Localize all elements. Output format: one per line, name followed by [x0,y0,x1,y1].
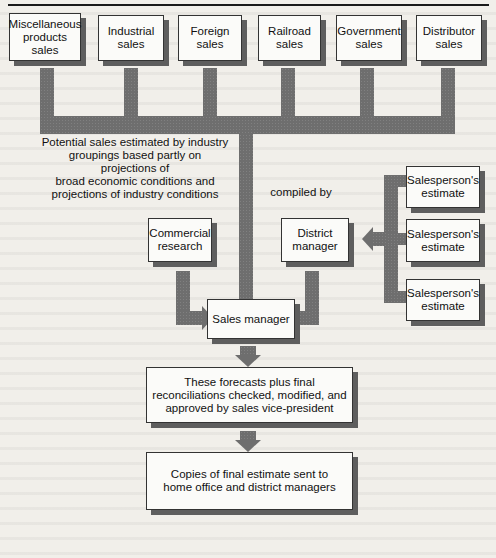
box-distributor-sales: Distributor sales [416,15,482,61]
stem-distributor [441,68,455,118]
label: Commercial research [149,227,210,253]
top-rule [8,4,489,6]
label: Sales manager [212,313,289,326]
salesperson-bracket-top [384,175,408,187]
stem-railroad [281,68,295,118]
box-salesperson-estimate-3: Salesperson's estimate [406,279,480,321]
box-sales-manager: Sales manager [207,299,295,339]
stem-government [360,68,374,118]
label: Salesperson's estimate [407,287,479,313]
box-government-sales: Government sales [336,15,402,61]
label: Industrial sales [108,25,155,51]
salesperson-bracket-mid [384,233,408,245]
stem-industrial [124,68,138,118]
box-salesperson-estimate-1: Salesperson's estimate [406,166,480,208]
potential-sales-note: Potential sales estimated by industry gr… [40,136,230,201]
label: Government sales [337,25,400,51]
label: District manager [292,227,337,253]
label: Foreign sales [191,25,230,51]
label: Salesperson's estimate [407,228,479,254]
box-misc-products-sales: Miscellaneous products sales [9,13,81,61]
arrow-to-final-copies [235,440,261,452]
bracket-to-district-stem [372,232,386,246]
main-trunk [239,134,253,302]
stem-misc [40,68,54,118]
box-foreign-sales: Foreign sales [178,15,242,61]
arrow-to-district-manager [362,227,373,251]
collector-bar [40,116,455,134]
box-salesperson-estimate-2: Salesperson's estimate [406,219,480,262]
district-left-bar [296,311,312,325]
compiled-by-label: compiled by [268,186,334,199]
salesperson-bracket-bottom [384,291,408,303]
stem-foreign [203,68,217,118]
box-district-manager: District manager [281,218,349,262]
label: These forecasts plus final reconciliatio… [152,376,346,415]
box-commercial-research: Commercial research [148,218,212,262]
label: Salesperson's estimate [407,174,479,200]
label: Railroad sales [268,25,311,51]
box-industrial-sales: Industrial sales [98,15,164,61]
label: Miscellaneous products sales [9,18,82,57]
box-reconciliation: These forecasts plus final reconciliatio… [146,367,353,423]
box-final-copies: Copies of final estimate sent to home of… [146,452,353,510]
label: Copies of final estimate sent to home of… [163,468,335,494]
label: Distributor sales [423,25,475,51]
arrow-to-reconciliation [235,355,261,367]
commercial-right-bar [176,311,202,325]
box-railroad-sales: Railroad sales [258,15,321,61]
